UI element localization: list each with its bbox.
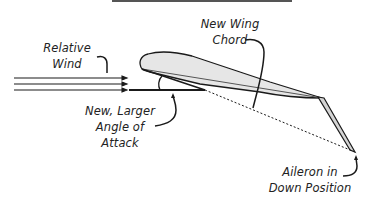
aileron-line2: Down Position (262, 180, 358, 196)
angle-line3: Attack (82, 135, 158, 151)
angle-of-attack-label: New, Larger Angle of Attack (82, 103, 158, 151)
aileron-line1: Aileron in (262, 164, 358, 180)
relative-wind-arrows (14, 76, 127, 92)
wing-airfoil (140, 52, 322, 98)
relative-wind-leader (97, 56, 107, 73)
wing-chord-line1: New Wing (190, 16, 270, 32)
angle-of-attack-arc (159, 76, 162, 90)
wing-chord-leader (245, 40, 264, 109)
angle-of-attack-arrowhead (171, 93, 175, 98)
angle-line1: New, Larger (82, 103, 158, 119)
aileron-diagram: Relative Wind New Wing Chord New, Larger… (0, 0, 372, 204)
wing-chord-line2: Chord (190, 32, 270, 48)
relative-wind-line1: Relative (38, 40, 96, 56)
angle-line2: Angle of (82, 119, 158, 135)
aileron-arrowhead (354, 155, 358, 160)
aileron (318, 97, 355, 152)
relative-wind-line2: Wind (38, 56, 96, 72)
relative-wind-label: Relative Wind (38, 40, 96, 72)
aileron-label: Aileron in Down Position (262, 164, 358, 196)
angle-of-attack-leader (155, 96, 176, 126)
new-wing-chord-label: New Wing Chord (190, 16, 270, 48)
